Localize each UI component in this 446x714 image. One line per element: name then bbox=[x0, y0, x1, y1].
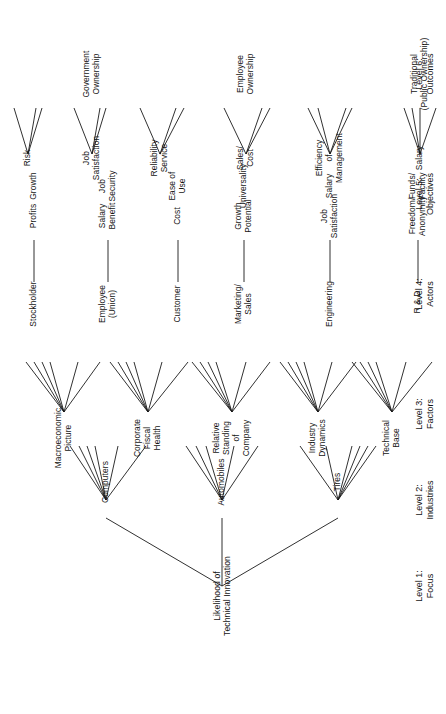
node-stockholder: Stockholder bbox=[29, 273, 39, 335]
node-engineering: Engineering bbox=[325, 272, 335, 336]
level-label-5: Level 5: Objectives bbox=[414, 173, 436, 215]
level-label-4: Level 4: Actors bbox=[414, 278, 436, 310]
node-corporate-fiscal-health: Corporate Fiscal Health bbox=[133, 409, 163, 467]
node-employee-union: Employee (Union) bbox=[98, 276, 118, 332]
node-employee-ownership: Employee Ownership bbox=[236, 42, 256, 106]
root-node: Likelihood of Technical Innovation bbox=[212, 553, 232, 639]
node-reliability-service: Reliability Service bbox=[150, 132, 170, 184]
diagram-stage: Likelihood of Technical Innovation Compu… bbox=[0, 0, 446, 714]
node-government-ownership: Government Ownership bbox=[82, 39, 102, 109]
node-job-satisfaction-employee: Job Satisfaction bbox=[82, 129, 102, 187]
level-label-2: Level 2: Industries bbox=[414, 480, 436, 519]
node-relative-standing-of-company: Relative Standing of Company bbox=[212, 409, 252, 467]
node-tires: Tires bbox=[333, 460, 343, 504]
node-ease-of-use: Ease of Use bbox=[168, 164, 188, 208]
node-efficiency-of-management: Efficiency of Management bbox=[315, 127, 345, 189]
node-marketing-sales: Marketing/ Sales bbox=[234, 276, 254, 332]
node-risk: Risk bbox=[23, 141, 33, 175]
node-industry-dynamics: Industry Dynamics bbox=[308, 409, 328, 467]
node-sales-cost: Sales/ Cost bbox=[236, 137, 256, 179]
hierarchy-diagram: Likelihood of Technical Innovation Compu… bbox=[0, 0, 446, 714]
node-macroeconomic-picture: Macroeconomic Picture bbox=[54, 397, 74, 479]
level-label-6: Level 6: Outcomes bbox=[414, 53, 436, 94]
node-computers: Computers bbox=[101, 451, 111, 513]
node-customer: Customer bbox=[173, 276, 183, 332]
level-label-1: Level 1: Focus bbox=[414, 570, 436, 602]
node-technical-base: Technical Base bbox=[382, 409, 402, 467]
level-label-3: Level 3: Factors bbox=[414, 398, 436, 430]
